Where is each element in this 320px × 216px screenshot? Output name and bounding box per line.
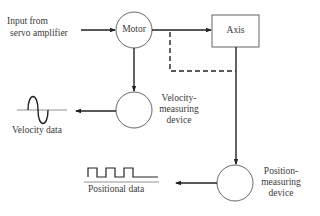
motor-label: Motor [116, 24, 152, 35]
square-wave-icon [84, 168, 159, 182]
velocity-device-label-line1: Velocity- [152, 93, 206, 104]
servo-feedback-diagram: Input from servo amplifier Motor Axis Ve… [0, 0, 320, 216]
position-device-node [217, 165, 253, 201]
position-device-label-line2: measuring [254, 177, 308, 188]
input-label-line2: servo amplifier [10, 28, 68, 39]
velocity-data-label: Velocity data [12, 125, 62, 136]
positional-data-label: Positional data [88, 184, 144, 195]
velocity-device-label-line3: device [152, 115, 206, 126]
position-device-label-line1: Position- [254, 166, 308, 177]
sine-wave-icon [17, 97, 67, 124]
velocity-device-label-line2: measuring [152, 104, 206, 115]
axis-label: Axis [212, 25, 259, 36]
velocity-device-node [116, 92, 152, 128]
position-device-label-line3: device [254, 188, 308, 199]
input-label-line1: Input from [7, 16, 48, 27]
